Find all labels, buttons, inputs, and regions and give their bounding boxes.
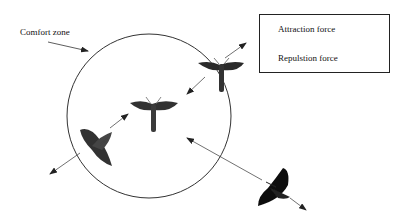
attraction-arrow-outside — [187, 138, 262, 180]
moth-center — [130, 97, 178, 132]
attraction-arrow-lower-left — [110, 114, 128, 128]
legend-box: Attraction force Repulstion force — [259, 14, 390, 73]
attraction-arrow-upper-right — [187, 77, 205, 94]
moth-outside — [258, 168, 290, 206]
repulsion-arrow-lower-left — [50, 153, 80, 174]
legend-attraction-label: Attraction force — [278, 24, 335, 34]
repulsion-arrow-upper-right — [225, 43, 246, 58]
legend-repulsion-label: Repulstion force — [278, 53, 338, 63]
comfort-zone-circle — [67, 34, 231, 198]
moth-upper-right — [198, 58, 244, 92]
outward-arrow-outside — [290, 198, 306, 210]
comfort-zone-pointer-arrow — [48, 42, 88, 51]
comfort-zone-label: Comfort zone — [20, 27, 70, 37]
moth-lower-left — [80, 129, 112, 166]
